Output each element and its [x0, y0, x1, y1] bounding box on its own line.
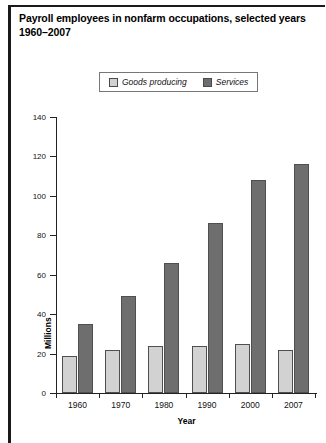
chart-figure: Payroll employees in nonfarm occupations…: [0, 0, 326, 443]
bar-services-1960: [78, 324, 93, 393]
legend-swatch-icon: [203, 78, 212, 87]
bar-services-2007: [294, 164, 309, 393]
x-axis-tick-label: 2000: [228, 400, 272, 410]
legend-swatch-icon: [109, 78, 118, 87]
frame-top-rule: [8, 5, 325, 7]
x-axis-tick-label: 1970: [99, 400, 143, 410]
y-axis-tick: [50, 354, 56, 355]
y-axis-tick-label: 0: [0, 389, 46, 398]
y-axis-tick: [50, 275, 56, 276]
y-axis-tick-label: 60: [0, 270, 46, 279]
bar-services-1990: [208, 223, 223, 393]
y-axis-tick-label: 140: [0, 113, 46, 122]
bar-services-1980: [164, 263, 179, 393]
x-axis-tick: [315, 393, 316, 398]
y-axis-tick-label: 120: [0, 152, 46, 161]
y-axis-tick-label: 40: [0, 310, 46, 319]
bar-services-1970: [121, 296, 136, 393]
y-axis-tick-label: 100: [0, 191, 46, 200]
x-axis-line: [56, 393, 317, 394]
x-axis-tick: [99, 393, 100, 398]
x-axis-tick-label: 2007: [271, 400, 315, 410]
x-axis-tick-label: 1960: [56, 400, 100, 410]
x-axis-tick-label: 1990: [185, 400, 229, 410]
x-axis-tick: [56, 393, 57, 398]
legend-label: Goods producing: [122, 77, 187, 87]
chart-title: Payroll employees in nonfarm occupations…: [19, 12, 314, 39]
bar-goods-producing-1960: [62, 356, 77, 393]
y-axis-tick-label: 20: [0, 349, 46, 358]
x-axis-tick: [229, 393, 230, 398]
bar-goods-producing-2007: [278, 350, 293, 393]
chart-legend: Goods producingServices: [99, 72, 258, 92]
y-axis-tick: [50, 156, 56, 157]
plot-area: Millions: [56, 117, 315, 393]
bar-goods-producing-2000: [235, 344, 250, 393]
legend-label: Services: [216, 77, 249, 87]
bar-goods-producing-1990: [192, 346, 207, 393]
frame-left-rule: [8, 5, 11, 443]
y-axis-tick: [50, 117, 56, 118]
bar-goods-producing-1970: [105, 350, 120, 393]
y-axis-title: Millions: [43, 317, 53, 349]
y-axis-tick-label: 80: [0, 231, 46, 240]
x-axis-tick-label: 1980: [142, 400, 186, 410]
cut-off-caption: [30, 436, 310, 443]
x-axis-title: Year: [56, 416, 317, 426]
y-axis-tick: [50, 235, 56, 236]
x-axis-tick: [186, 393, 187, 398]
x-axis-tick: [142, 393, 143, 398]
y-axis-tick: [50, 314, 56, 315]
bar-services-2000: [251, 180, 266, 393]
legend-entry: Services: [203, 77, 249, 87]
x-axis-tick: [272, 393, 273, 398]
bar-goods-producing-1980: [148, 346, 163, 393]
legend-entry: Goods producing: [109, 77, 187, 87]
y-axis-tick: [50, 196, 56, 197]
